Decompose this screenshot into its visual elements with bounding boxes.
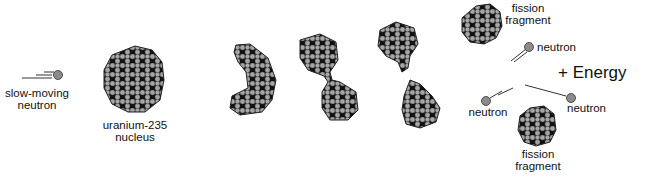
label-fragment-top: fission fragment xyxy=(498,2,558,26)
label-fragment-bottom-line1: fission xyxy=(506,148,570,160)
label-fragment-top-line1: fission xyxy=(498,2,558,14)
necking-nucleus xyxy=(300,34,358,120)
label-uranium-line1: uranium-235 xyxy=(95,119,175,131)
emitted-neutron-top xyxy=(511,43,534,63)
label-uranium-line2: nucleus xyxy=(95,131,175,143)
uranium-nucleus xyxy=(104,46,164,112)
label-slow-neutron-line1: slow-moving xyxy=(2,87,72,99)
label-neutron-top: neutron xyxy=(537,41,587,53)
label-neutron-right: neutron xyxy=(567,102,617,114)
label-fragment-bottom-line2: fragment xyxy=(506,160,570,172)
splitting-nucleus xyxy=(378,22,440,128)
label-uranium-nucleus: uranium-235 nucleus xyxy=(95,119,175,143)
label-slow-neutron-line2: neutron xyxy=(2,99,72,111)
emitted-neutron-right xyxy=(525,85,576,103)
emitted-neutron-left xyxy=(482,88,514,106)
slow-neutron xyxy=(22,71,63,80)
label-slow-neutron: slow-moving neutron xyxy=(2,87,72,111)
label-energy: + Energy xyxy=(558,63,627,83)
fission-fragment-bottom xyxy=(518,106,556,146)
fission-fragment-top xyxy=(462,4,502,44)
label-neutron-left: neutron xyxy=(463,106,513,118)
label-fragment-bottom: fission fragment xyxy=(506,148,570,172)
label-fragment-top-line2: fragment xyxy=(498,14,558,26)
elongating-nucleus xyxy=(230,44,276,115)
